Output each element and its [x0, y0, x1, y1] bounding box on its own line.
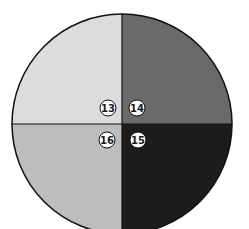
badge-15: 15	[130, 132, 146, 148]
badge-16: 16	[99, 132, 115, 148]
badge-label-13: 13	[101, 103, 115, 114]
badge-label-15: 15	[131, 135, 145, 146]
badge-14: 14	[129, 100, 145, 116]
quadrant-circle-diagram: 13 14 15 16	[0, 0, 249, 229]
badge-label-16: 16	[100, 135, 114, 146]
badge-label-14: 14	[130, 103, 144, 114]
badge-13: 13	[100, 100, 116, 116]
